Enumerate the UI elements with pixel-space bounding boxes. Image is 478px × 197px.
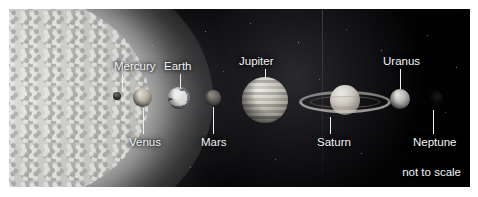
label-mercury: Mercury	[114, 60, 156, 72]
leader-line-neptune	[433, 110, 434, 134]
star	[381, 50, 382, 51]
planet-uranus	[390, 89, 410, 109]
leader-line-venus	[143, 108, 144, 134]
star	[445, 112, 446, 113]
star	[190, 167, 191, 168]
star	[456, 67, 457, 68]
star	[275, 159, 276, 160]
planet-earth	[168, 87, 190, 109]
planet-saturn-group	[299, 77, 391, 127]
planet-mercury	[113, 92, 121, 100]
space-photo-plate: Mercury Venus Earth Mars Jupiter Saturn …	[9, 9, 470, 187]
leader-line-jupiter	[265, 69, 266, 78]
saturn-ring-inner	[310, 96, 380, 108]
scale-disclaimer-caption: not to scale	[402, 166, 461, 178]
solar-system-figure: Mercury Venus Earth Mars Jupiter Saturn …	[0, 0, 478, 197]
planet-venus	[133, 88, 152, 107]
label-neptune: Neptune	[413, 136, 456, 148]
star	[223, 71, 224, 72]
planet-mars	[205, 90, 221, 106]
star	[298, 42, 299, 43]
label-uranus: Uranus	[383, 55, 420, 67]
leader-line-earth	[180, 74, 181, 88]
leader-line-mars	[213, 107, 214, 134]
label-jupiter: Jupiter	[239, 55, 274, 67]
planet-neptune	[424, 90, 443, 109]
label-saturn: Saturn	[317, 136, 351, 148]
star	[427, 35, 428, 36]
label-earth: Earth	[164, 60, 192, 72]
label-mars: Mars	[201, 136, 227, 148]
leader-line-mercury	[122, 74, 123, 92]
leader-line-saturn	[330, 117, 331, 134]
star	[361, 153, 362, 154]
leader-line-uranus	[400, 69, 401, 89]
planet-jupiter	[242, 77, 288, 123]
star	[346, 29, 347, 30]
star	[152, 45, 153, 46]
label-venus: Venus	[129, 136, 161, 148]
star	[250, 23, 251, 24]
star	[205, 31, 206, 32]
